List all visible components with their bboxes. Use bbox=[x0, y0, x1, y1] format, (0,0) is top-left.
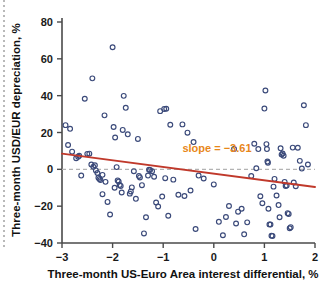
x-tick-label: −3 bbox=[56, 251, 69, 263]
scatter-point bbox=[79, 173, 84, 178]
scatter-point bbox=[123, 105, 128, 110]
scatter-point bbox=[82, 96, 87, 101]
scatter-point bbox=[168, 122, 173, 127]
scatter-point bbox=[278, 146, 283, 151]
scatter-point bbox=[142, 231, 147, 236]
scatter-point bbox=[138, 175, 143, 180]
y-tick-label: 40 bbox=[41, 90, 53, 102]
scatter-point bbox=[146, 173, 151, 178]
scatter-point bbox=[277, 215, 282, 220]
scatter-point bbox=[256, 147, 261, 152]
x-tick-label: −1 bbox=[157, 251, 170, 263]
y-tick-label: 20 bbox=[41, 127, 53, 139]
scatter-point bbox=[188, 188, 193, 193]
scatter-point bbox=[295, 145, 300, 150]
scatter-point bbox=[303, 123, 308, 128]
scatter-point bbox=[136, 137, 141, 142]
scatter-point bbox=[90, 76, 95, 81]
scatter-point bbox=[258, 194, 263, 199]
scatter-point bbox=[114, 165, 119, 170]
scatter-point bbox=[264, 142, 269, 147]
scatter-point bbox=[252, 141, 257, 146]
scatter-point bbox=[265, 147, 270, 152]
scatter-point bbox=[100, 172, 105, 177]
scatter-point bbox=[125, 132, 130, 137]
scatter-point bbox=[306, 162, 311, 167]
scatter-point bbox=[120, 128, 125, 133]
scatter-point bbox=[112, 185, 117, 190]
scatter-point bbox=[266, 206, 271, 211]
scatter-point bbox=[193, 227, 198, 232]
x-tick-label: 0 bbox=[211, 251, 217, 263]
scatter-point bbox=[299, 166, 304, 171]
scatter-point bbox=[103, 179, 108, 184]
scatter-point bbox=[156, 204, 161, 209]
x-tick-label: 2 bbox=[312, 251, 318, 263]
y-tick-label: −40 bbox=[34, 237, 53, 249]
scatter-point bbox=[234, 221, 239, 226]
scatter-point bbox=[66, 143, 71, 148]
scatter-point bbox=[144, 215, 149, 220]
slope-annotation: slope = −3.61 bbox=[182, 142, 251, 154]
scatter-point bbox=[113, 135, 118, 140]
scatter-point bbox=[216, 219, 221, 224]
x-axis-title: Three-month US-Euro Area interest differ… bbox=[47, 268, 318, 280]
scatter-point bbox=[239, 206, 244, 211]
scatter-point bbox=[171, 177, 176, 182]
scatter-point bbox=[227, 204, 232, 209]
y-tick-labels: −40−20020406080 bbox=[34, 16, 53, 249]
x-tick-label: −2 bbox=[106, 251, 119, 263]
scatter-point bbox=[297, 158, 302, 163]
scatter-point bbox=[68, 126, 73, 131]
scatter-point bbox=[182, 194, 187, 199]
scatter-point bbox=[262, 106, 267, 111]
scatter-point bbox=[70, 149, 75, 154]
scatter-point bbox=[180, 122, 185, 127]
y-axis-title: Three-month USD/EUR depreciation, % bbox=[10, 23, 22, 236]
scatter-point bbox=[163, 176, 168, 181]
scatter-point bbox=[260, 201, 265, 206]
scatter-point bbox=[160, 194, 165, 199]
scatter-point bbox=[119, 190, 124, 195]
scatter-point bbox=[105, 200, 110, 205]
scatter-point bbox=[221, 233, 226, 238]
scatter-point bbox=[224, 215, 229, 220]
y-tick-label: 80 bbox=[41, 16, 53, 28]
scatter-point bbox=[245, 220, 250, 225]
scatter-point bbox=[254, 166, 259, 171]
scatter-point bbox=[100, 192, 105, 197]
scatter-point bbox=[102, 113, 107, 118]
scatter-point bbox=[242, 232, 247, 237]
scatter-point bbox=[196, 173, 201, 178]
scatter-point bbox=[276, 203, 281, 208]
scatter-point bbox=[166, 213, 171, 218]
scatter-point bbox=[301, 103, 306, 108]
scatter-point bbox=[152, 174, 157, 179]
scatter-point bbox=[140, 183, 145, 188]
scatter-point bbox=[111, 125, 116, 130]
scatter-point bbox=[290, 145, 295, 150]
scatter-point bbox=[108, 212, 113, 217]
scatter-point bbox=[121, 93, 126, 98]
x-tick-label: 1 bbox=[261, 251, 267, 263]
scatter-point bbox=[274, 193, 279, 198]
scatter-point bbox=[263, 88, 268, 93]
scatter-chart: Three-month USD/EUR depreciation, % Thre… bbox=[0, 0, 333, 294]
scatter-point bbox=[211, 182, 216, 187]
scatter-point bbox=[185, 130, 190, 135]
x-tick-labels: −3−2−1012 bbox=[56, 251, 318, 263]
scatter-point bbox=[63, 123, 68, 128]
scatter-point bbox=[110, 45, 115, 50]
figure-container: Three-month USD/EUR depreciation, % Thre… bbox=[0, 0, 333, 294]
scatter-point bbox=[176, 192, 181, 197]
scatter-point bbox=[271, 184, 276, 189]
y-tick-label: 60 bbox=[41, 53, 53, 65]
scatter-point bbox=[201, 176, 206, 181]
y-tick-label: 0 bbox=[47, 163, 53, 175]
y-tick-label: −20 bbox=[34, 200, 53, 212]
scatter-point bbox=[133, 196, 138, 201]
